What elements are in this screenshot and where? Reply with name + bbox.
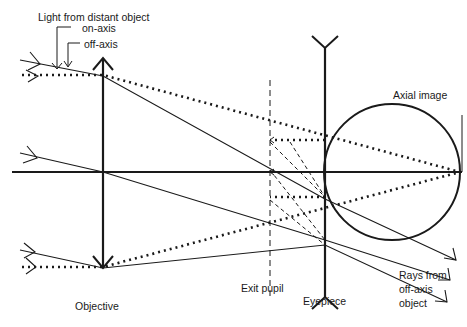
axial-image-label: Axial image [393,89,447,101]
off-axis-label: off-axis [84,38,118,50]
telescope-ray-diagram [0,0,467,327]
incoming-ray-chevrons [23,52,40,274]
label-pointers [52,27,80,69]
virtual-ray-extensions [270,142,325,245]
rays-label-line3: object [399,297,427,309]
objective-label: Objective [75,300,119,312]
rays-label-line1: Rays from [399,269,447,281]
on-axis-label: on-axis [82,22,116,34]
objective-lens [93,58,113,268]
exit-pupil-label: Exit pupil [241,282,284,294]
eyepiece-label: Eyepiece [303,295,346,307]
rays-label-line2: off-axis [399,283,433,295]
off-axis-rays [20,60,456,302]
